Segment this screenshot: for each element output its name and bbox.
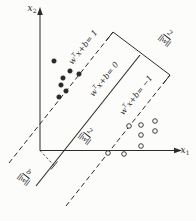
data-point-positive bbox=[52, 59, 57, 64]
data-point-negative bbox=[139, 133, 144, 138]
svm-margin-diagram: x2 x1 wTx+b= 1 wTx+b= 0 wTx+b= −1 2 ||w|… bbox=[0, 0, 196, 221]
hyperplane-zero-line bbox=[36, 55, 140, 186]
origin-offset-marker bbox=[40, 151, 58, 170]
data-point-positive bbox=[64, 89, 69, 94]
data-point-negative bbox=[127, 124, 132, 129]
y-axis-arrowhead bbox=[37, 7, 43, 15]
data-point-negative bbox=[122, 152, 127, 157]
data-point-negative bbox=[153, 119, 158, 124]
x-axis-label: x1 bbox=[181, 146, 190, 157]
data-point-negative bbox=[139, 144, 144, 149]
data-point-positive bbox=[77, 72, 82, 77]
origin-offset-dashed-line bbox=[40, 151, 54, 166]
data-point-negative bbox=[106, 151, 111, 156]
data-point-negative bbox=[139, 123, 144, 128]
data-point-positive bbox=[61, 76, 66, 81]
y-axis-label: x2 bbox=[28, 4, 37, 15]
margin-measure-tick-right bbox=[163, 75, 170, 84]
margin-measure-tick-left bbox=[106, 32, 113, 41]
positive-points-group bbox=[52, 59, 82, 100]
data-point-positive bbox=[68, 69, 73, 74]
data-point-negative bbox=[153, 129, 158, 134]
data-point-positive bbox=[59, 83, 64, 88]
data-point-positive bbox=[57, 95, 62, 100]
